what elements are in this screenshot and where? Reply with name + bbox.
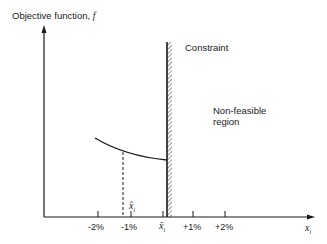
constraint-label: Constraint <box>185 42 228 53</box>
y-axis-symbol: f <box>93 11 96 21</box>
tick-label-xbar: x̄i <box>159 220 165 233</box>
y-axis-label: Objective function, f <box>12 10 95 21</box>
y-axis-label-text: Objective function, <box>12 10 93 21</box>
nonfeasible-line1: Non-feasible <box>213 105 266 116</box>
tick-label-m2: -2% <box>88 222 104 232</box>
objective-curve <box>95 138 167 160</box>
diagram-canvas <box>0 0 327 244</box>
xbar-sub: i <box>163 227 165 233</box>
nonfeasible-label: Non-feasible region <box>213 105 266 127</box>
tick-label-p1: +1% <box>183 222 201 232</box>
nonfeasible-line2: region <box>213 116 266 127</box>
xhat-sub: i <box>133 207 135 213</box>
tick-label-m1: -1% <box>121 222 137 232</box>
tick-label-p2: +2% <box>215 222 233 232</box>
y-axis-arrow-icon <box>42 25 47 33</box>
x-axis-sub: i <box>309 229 311 235</box>
x-axis-label: xi <box>305 222 311 235</box>
x-axis-arrow-icon <box>307 215 315 220</box>
xhat-label: x̂i <box>129 200 135 213</box>
